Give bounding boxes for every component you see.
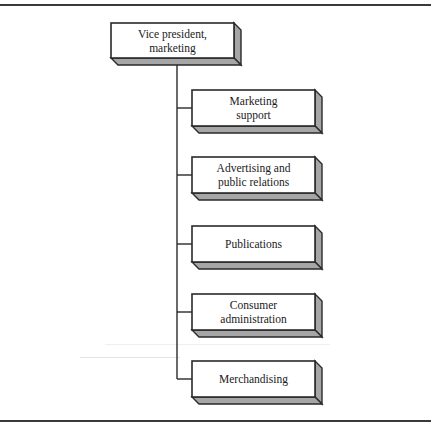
box-merchandising-bottom-face (192, 397, 322, 404)
box-vp-marketing-bottom-face (111, 58, 241, 65)
box-advertising-public-relations-bottom-face (192, 193, 322, 200)
box-publications-bottom-face (192, 262, 322, 269)
box-marketing-support-bottom-face (192, 126, 322, 133)
box-marketing-support-label: Marketing support (192, 90, 315, 126)
box-consumer-administration-label: Consumer administration (192, 294, 315, 330)
box-merchandising-label: Merchandising (192, 361, 315, 397)
box-publications-label: Publications (192, 226, 315, 262)
boxes (111, 23, 322, 404)
box-vp-marketing-label: Vice president, marketing (111, 23, 234, 58)
connectors (177, 65, 192, 379)
box-consumer-administration-bottom-face (192, 330, 322, 337)
box-advertising-public-relations-label: Advertising and public relations (192, 157, 315, 193)
